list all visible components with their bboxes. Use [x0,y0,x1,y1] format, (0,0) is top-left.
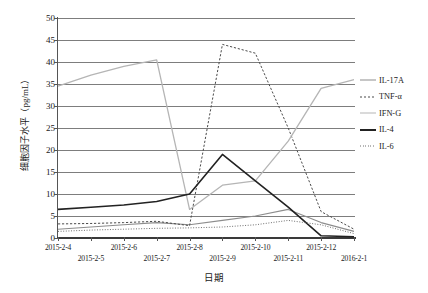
series-line-il-17a [58,209,354,231]
x-axis-tick-mark [157,237,158,241]
legend-label: IFN-G [379,109,401,118]
x-axis-tick-mark [255,237,256,241]
x-axis-tick-label: 2015-2-4 [45,243,71,252]
x-axis-tick-mark [222,237,223,241]
x-axis-tick-label: 2015-2-5 [78,254,104,263]
y-axis-title: 细胞因子水平（pg/mL） [21,38,30,208]
plot-area: 05101520253035404550 [58,18,355,238]
x-axis-tick-label: 2016-2-1 [341,254,367,263]
legend-item-tnf-[interactable]: TNF-α [360,89,428,106]
legend-swatch-icon [360,125,376,134]
legend-item-il-4[interactable]: IL-4 [360,122,428,139]
x-axis-tick-mark [354,237,355,241]
x-axis-tick-mark [124,237,125,241]
x-axis-tick-label: 2015-2-11 [273,254,303,263]
x-axis-tick-label: 2015-2-8 [176,243,202,252]
legend-item-il-6[interactable]: IL-6 [360,138,428,155]
series-lines [58,18,355,238]
x-axis-tick-mark [190,237,191,241]
legend-label: IL-4 [379,125,394,134]
legend-item-il-17a[interactable]: IL-17A [360,72,428,89]
legend-label: IL-6 [379,142,394,151]
x-axis-tick-label: 2015-2-6 [111,243,137,252]
x-axis-tick-label: 2015-2-10 [240,243,270,252]
legend-label: IL-17A [379,76,404,85]
x-axis-tick-mark [288,237,289,241]
legend-swatch-icon [360,76,376,85]
legend-swatch-icon [360,92,376,101]
x-axis-tick-label: 2015-2-12 [306,243,336,252]
x-axis-tick-mark [91,237,92,241]
x-axis-tick-label: 2015-2-9 [209,254,235,263]
chart-legend: IL-17ATNF-αIFN-GIL-4IL-6 [360,72,428,155]
x-axis-title: 日期 [0,270,428,284]
line-chart-figure: 细胞因子水平（pg/mL） 05101520253035404550 2015-… [0,0,428,293]
x-axis-tick-label: 2015-2-7 [144,254,170,263]
x-axis-tick-mark [321,237,322,241]
legend-swatch-icon [360,109,376,118]
series-line-il-4 [58,154,354,236]
x-axis-tick-mark [58,237,59,241]
legend-item-ifn-g[interactable]: IFN-G [360,105,428,122]
legend-swatch-icon [360,142,376,151]
legend-label: TNF-α [379,92,402,101]
